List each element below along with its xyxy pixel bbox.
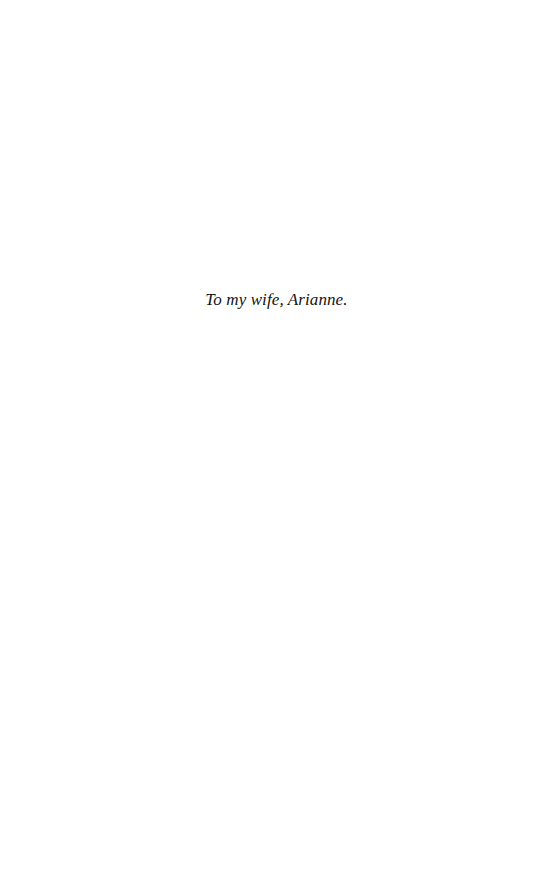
dedication-text: To my wife, Arianne. [0, 290, 553, 310]
book-page: To my wife, Arianne. [0, 0, 553, 883]
